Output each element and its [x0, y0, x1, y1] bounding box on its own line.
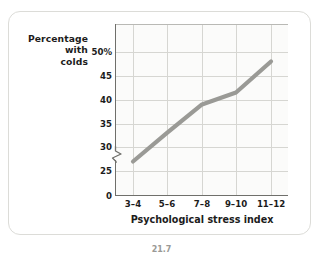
figure-caption: 21.7	[0, 245, 323, 253]
series-polyline	[133, 62, 271, 162]
x-axis-line	[115, 195, 288, 196]
y-tick-label-0: 0	[72, 191, 112, 201]
y-tick-label-40: 40	[72, 95, 112, 105]
y-tick-label-45: 45	[72, 71, 112, 81]
y-tick-label-35: 35	[72, 119, 112, 129]
data-series-line	[116, 24, 288, 196]
x-axis-title: Psychological stress index	[100, 214, 304, 225]
y-axis-line-lower	[115, 160, 116, 196]
y-tick-label-30: 30	[72, 142, 112, 152]
y-axis-break-icon	[110, 146, 126, 163]
y-tick-label-25: 25	[72, 166, 112, 176]
x-tick-label-5: 11–12	[249, 199, 293, 209]
y-axis-line-upper	[115, 24, 116, 148]
x-axis-tick-labels: 3–4 5–6 7–8 9–10 11–12	[116, 199, 288, 213]
y-tick-label-50: 50%	[72, 47, 112, 57]
